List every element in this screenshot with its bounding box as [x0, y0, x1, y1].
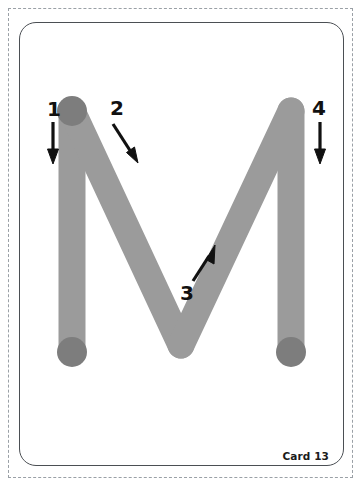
card-number-caption: Card 13 — [283, 450, 329, 462]
worksheet-card-page: 1 2 3 4 Card 13 — [0, 0, 363, 488]
stroke-number-label-4: 4 — [312, 98, 325, 118]
stroke-number-label-1: 1 — [47, 99, 60, 119]
stroke-number-label-2: 2 — [110, 98, 123, 118]
letter-practice-card — [19, 22, 344, 466]
stroke-number-label-3: 3 — [180, 283, 193, 303]
